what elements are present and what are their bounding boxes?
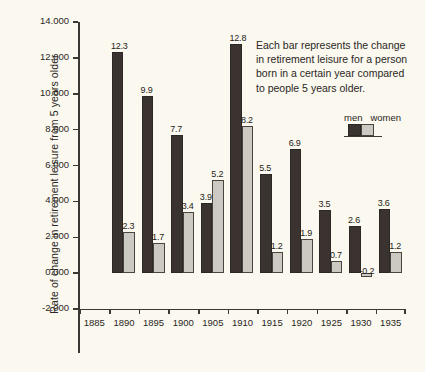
x-tick-mark [376, 309, 378, 314]
bar-value-label: 3.4 [182, 201, 194, 211]
bar-value-label: 2.3 [122, 221, 134, 231]
x-tick-mark [139, 309, 141, 314]
x-tick-mark [346, 309, 348, 314]
legend-swatches [344, 124, 384, 138]
bar-group: 3.95.2 [198, 22, 228, 309]
y-tick-label: 10.000 [40, 87, 69, 98]
y-axis-title: Rate of change in retirement leisure fro… [48, 34, 60, 334]
y-tick-label: 6.000 [45, 159, 69, 170]
y-tick-mark [73, 57, 78, 59]
bar-men [230, 44, 242, 274]
y-tick-mark [73, 129, 78, 131]
bar-group: 12.88.2 [228, 22, 258, 309]
bar-value-label: 1.2 [271, 241, 283, 251]
bar-value-label: 0.7 [330, 250, 342, 260]
bar-value-label: 9.9 [141, 85, 153, 95]
bar-men [142, 96, 154, 274]
bar-value-label: -0.2 [360, 266, 375, 276]
chart-annotation: Each bar represents the changein retirem… [256, 38, 422, 95]
bar-value-label: 5.5 [259, 163, 271, 173]
bar-value-label: 3.6 [378, 198, 390, 208]
y-tick-mark [73, 93, 78, 95]
y-tick-mark [73, 237, 78, 239]
bar-men [112, 52, 124, 273]
bar-men [319, 210, 331, 273]
y-tick-label: 4.000 [45, 194, 69, 205]
annotation-line: born in a certain year compared [256, 66, 422, 80]
bar-group [80, 22, 110, 309]
bar-women [183, 212, 195, 273]
legend-baseline [344, 136, 382, 137]
annotation-line: Each bar represents the change [256, 38, 422, 52]
legend-labels: men women [344, 112, 401, 123]
x-tick-mark [287, 309, 289, 314]
bar-women [301, 239, 313, 273]
bar-group: 12.32.3 [109, 22, 139, 309]
x-tick-mark [109, 309, 111, 314]
y-tick-mark [73, 165, 78, 167]
bar-group: 9.91.7 [139, 22, 169, 309]
x-tick-mark [317, 309, 319, 314]
bar-women [153, 243, 165, 273]
bar-value-label: 1.7 [152, 232, 164, 242]
annotation-line: to people 5 years older. [256, 81, 422, 95]
bar-men [201, 203, 213, 273]
bar-value-label: 12.3 [111, 41, 128, 51]
bar-value-label: 12.8 [229, 33, 246, 43]
bar-women [272, 252, 284, 274]
y-tick-label: 14.000 [40, 15, 69, 26]
legend-label-women: women [370, 112, 401, 123]
bar-value-label: 2.6 [348, 215, 360, 225]
bar-women [212, 180, 224, 273]
x-tick-mark [228, 309, 230, 314]
y-tick-label: -2.000 [42, 302, 69, 313]
y-tick-mark [73, 21, 78, 23]
y-tick-mark [73, 201, 78, 203]
y-tick-label: 0.000 [45, 266, 69, 277]
x-tick-mark [404, 309, 406, 314]
y-tick-label: 2.000 [45, 230, 69, 241]
chart-legend: men women [344, 112, 401, 138]
x-tick-label: 1935 [371, 317, 411, 328]
bar-women [331, 261, 343, 274]
bar-value-label: 1.9 [300, 228, 312, 238]
bar-value-label: 7.7 [170, 124, 182, 134]
bar-chart: Rate of change in retirement leisure fro… [0, 0, 425, 372]
bar-value-label: 8.2 [241, 115, 253, 125]
y-tick-label: 8.000 [45, 123, 69, 134]
x-tick-mark [80, 309, 82, 314]
y-tick-mark [73, 272, 78, 274]
bar-value-label: 6.9 [289, 138, 301, 148]
legend-swatch-women [361, 124, 374, 136]
bar-value-label: 3.9 [200, 192, 212, 202]
bar-men [260, 174, 272, 273]
x-tick-mark [168, 309, 170, 314]
bar-value-label: 1.2 [389, 241, 401, 251]
y-tick-label: 12.000 [40, 51, 69, 62]
annotation-line: in retirement leisure for a person [256, 52, 422, 66]
y-tick-mark [73, 308, 78, 310]
x-tick-mark [198, 309, 200, 314]
bar-women [123, 232, 135, 273]
legend-label-men: men [344, 112, 362, 123]
bar-value-label: 3.5 [318, 199, 330, 209]
bar-women [390, 252, 402, 274]
bar-group: 7.73.4 [168, 22, 198, 309]
bar-women [242, 126, 254, 273]
x-tick-mark [257, 309, 259, 314]
bar-men [290, 149, 302, 273]
legend-swatch-men [348, 124, 361, 136]
bar-value-label: 5.2 [211, 169, 223, 179]
